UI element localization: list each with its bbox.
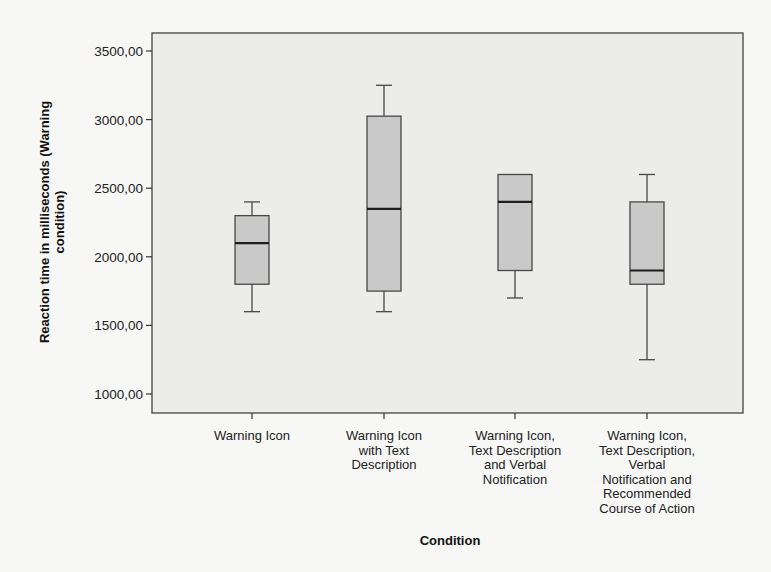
category-label: Warning Iconwith TextDescription [346, 428, 422, 472]
y-tick-label: 2500,00 [94, 181, 143, 196]
category-label: Warning Icon,Text Descriptionand VerbalN… [469, 428, 561, 487]
iqr-box [498, 174, 532, 270]
iqr-box [367, 116, 401, 291]
category-label: Warning Icon [214, 428, 290, 443]
svg-text:Reaction time in milliseconds: Reaction time in milliseconds (Warningco… [37, 101, 67, 343]
y-axis: 1000,001500,002000,002500,003000,003500,… [94, 44, 152, 402]
y-axis-title: Reaction time in milliseconds (Warningco… [37, 101, 67, 343]
y-tick-label: 2000,00 [94, 250, 143, 265]
x-axis: Warning IconWarning Iconwith TextDescrip… [214, 413, 695, 516]
y-tick-label: 1000,00 [94, 387, 143, 402]
iqr-box [235, 216, 269, 285]
iqr-box [630, 202, 664, 284]
box-2 [367, 85, 401, 311]
x-axis-title: Condition [420, 533, 481, 548]
boxplot-chart: 1000,001500,002000,002500,003000,003500,… [0, 0, 771, 572]
category-label: Warning Icon,Text Description,VerbalNoti… [599, 428, 695, 516]
y-tick-label: 1500,00 [94, 318, 143, 333]
y-tick-label: 3000,00 [94, 113, 143, 128]
y-tick-label: 3500,00 [94, 44, 143, 59]
